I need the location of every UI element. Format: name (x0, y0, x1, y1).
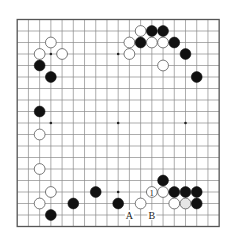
black-stone (158, 26, 169, 37)
star-point (184, 122, 187, 125)
move-number-label: 1 (150, 188, 155, 198)
black-stone (34, 106, 45, 117)
black-stone (158, 175, 169, 186)
white-stone (146, 37, 157, 48)
star-point (50, 53, 53, 56)
black-stone (191, 187, 202, 198)
white-stone (34, 198, 45, 209)
white-stone (34, 49, 45, 60)
position-mark-a: A (126, 210, 134, 221)
star-point (50, 122, 53, 125)
black-stone (45, 210, 56, 221)
black-stone (135, 37, 146, 48)
black-stone (191, 198, 202, 209)
black-stone (68, 198, 79, 209)
black-stone (146, 26, 157, 37)
white-stone (34, 129, 45, 140)
black-stone (180, 187, 191, 198)
white-stone (158, 60, 169, 71)
position-mark-b: B (149, 210, 156, 221)
white-stone (169, 198, 180, 209)
white-stone (57, 49, 68, 60)
white-stone (45, 187, 56, 198)
white-stone (135, 198, 146, 209)
black-stone (169, 187, 180, 198)
white-stone (180, 198, 191, 209)
star-point (117, 53, 120, 56)
white-stone (158, 37, 169, 48)
black-stone (34, 60, 45, 71)
white-stone (45, 37, 56, 48)
white-stone (135, 26, 146, 37)
black-stone (45, 72, 56, 83)
go-board: AB 1 (0, 0, 231, 252)
white-stone (124, 37, 135, 48)
black-stone (90, 187, 101, 198)
black-stone (180, 49, 191, 60)
white-stone (158, 187, 169, 198)
black-stone (113, 198, 124, 209)
black-stone (191, 72, 202, 83)
star-point (117, 122, 120, 125)
star-point (117, 191, 120, 194)
white-stone (124, 49, 135, 60)
black-stone (169, 37, 180, 48)
go-board-diagram: AB 1 (0, 0, 231, 252)
white-stone (34, 164, 45, 175)
